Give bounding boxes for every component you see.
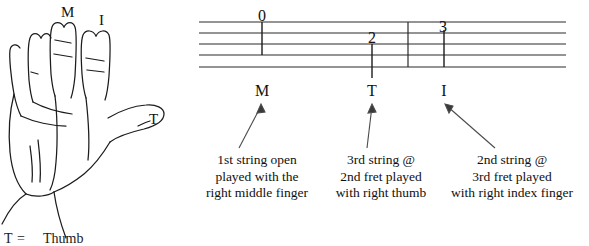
fret-number-third: 3	[434, 19, 452, 35]
caption-line: 3rd fret played	[436, 169, 588, 186]
caption-second-string-index: 2nd string @ 3rd fret played with right …	[436, 152, 588, 202]
palm-crease-short-a	[38, 140, 40, 182]
arrow-head-2	[368, 104, 376, 113]
finger-mark-third: I	[434, 83, 454, 99]
ring-finger-outline-b	[41, 34, 51, 39]
thumb-lower-outline	[54, 142, 110, 192]
tablature-svg	[195, 0, 589, 246]
legend-word: Thumb	[43, 231, 83, 246]
ring-knuckle-crease	[31, 72, 38, 74]
wrist-base-outline	[26, 192, 54, 196]
hand-label-thumb: T	[149, 112, 158, 127]
index-finger-outline	[81, 31, 96, 98]
middle-finger-outline-b	[64, 23, 76, 99]
arrow-line-3	[447, 106, 495, 148]
caption-line: with right thumb	[322, 185, 440, 202]
hand-drawing-svg	[0, 0, 195, 246]
note-stems	[262, 22, 444, 78]
palm-crease-right	[86, 98, 89, 160]
hand-label-index: I	[99, 13, 104, 28]
finger-mark-second: T	[362, 83, 382, 99]
palm-crease-mid	[21, 116, 66, 126]
arrow-head-1	[257, 104, 265, 113]
legend-thumb: T=Thumb	[4, 231, 83, 246]
caption-line: played with the	[196, 169, 318, 186]
legend-symbol: T	[4, 231, 17, 246]
staff-lines	[199, 22, 566, 67]
caption-line: 3rd string @	[322, 152, 440, 169]
leader-arrows	[239, 104, 495, 148]
fret-number-second: 2	[363, 30, 381, 46]
caption-open-middle: 1st string open played with the right mi…	[196, 152, 318, 202]
legend-equals: =	[17, 231, 43, 246]
wrist-left-outline	[2, 194, 26, 224]
index-knuckle-crease-a	[86, 58, 104, 61]
middle-knuckle-crease-a	[55, 40, 71, 43]
palm-crease-short-b	[30, 146, 32, 182]
hand-illustration: M I T	[0, 0, 195, 246]
index-finger-outline-b	[96, 31, 110, 100]
tablature-figure	[195, 0, 589, 246]
caption-line: with right index finger	[436, 185, 588, 202]
caption-line: 2nd fret played	[322, 169, 440, 186]
palm-crease-upper	[33, 102, 72, 114]
ring-finger-outline	[28, 34, 41, 103]
arrow-head-3	[445, 104, 453, 113]
caption-line: 1st string open	[196, 152, 318, 169]
caption-line: right middle finger	[196, 185, 318, 202]
finger-mark-first: M	[252, 83, 272, 99]
middle-finger-outline	[50, 23, 64, 97]
middle-knuckle-crease-b	[54, 54, 72, 57]
caption-line: 2nd string @	[436, 152, 588, 169]
fret-number-first: 0	[253, 8, 271, 24]
caption-third-string-thumb: 3rd string @ 2nd fret played with right …	[322, 152, 440, 202]
figure-root: M I T T=Thumb	[0, 0, 589, 246]
hand-label-middle: M	[61, 5, 74, 20]
index-knuckle-crease-b	[87, 70, 104, 72]
